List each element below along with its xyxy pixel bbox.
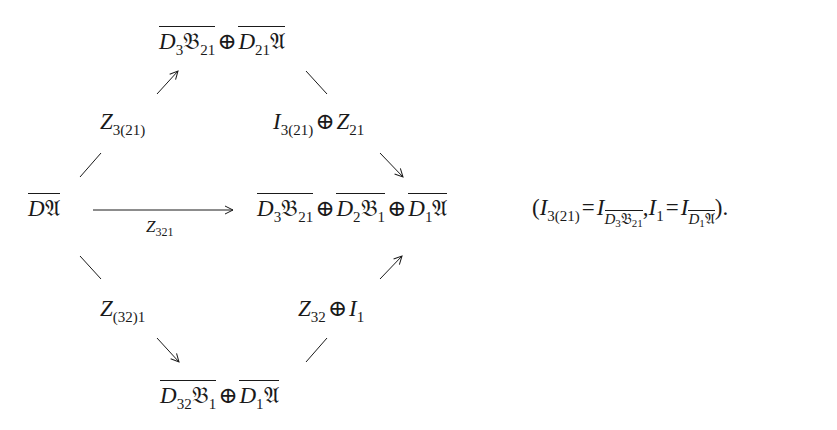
center-term-1: D3𝔅21 [257, 193, 313, 221]
symbol-d: D [257, 196, 274, 221]
subscript: 21 [632, 217, 643, 229]
edge-label-i-3-21-oplus-z-21: I3(21)⊕Z21 [273, 110, 364, 133]
node-left: D𝔄 [28, 193, 60, 221]
edge-left-bottom-upper-segment [80, 256, 101, 279]
oplus-operator: ⊕ [313, 109, 336, 134]
edge-left-top-lower-segment [80, 153, 101, 177]
subscript-overlined-term: D3𝔅21 [605, 210, 643, 228]
symbol-d: D [28, 196, 45, 221]
subscript: 1 [357, 309, 365, 325]
top-term-2: D21𝔄 [238, 26, 285, 54]
fraktur-a: 𝔄 [432, 195, 447, 221]
side-note: (I3(21)=ID3𝔅21,I1=ID1𝔄). [532, 196, 728, 219]
subscript: 2 [353, 209, 361, 225]
edge-label-z-321: Z321 [146, 218, 173, 235]
open-paren: ( [532, 195, 540, 220]
subscript: 3(21) [547, 208, 580, 224]
subscript: 21 [349, 122, 364, 138]
symbol-i: I [273, 109, 281, 134]
edge-top-center-upper-segment [306, 71, 327, 94]
edge-bottom-center-upper-segment [380, 256, 402, 279]
subscript: 32 [311, 309, 326, 325]
subscript: 1 [656, 208, 664, 224]
subscript: 3(21) [113, 122, 146, 138]
close-paren-period: ). [715, 195, 728, 220]
oplus-operator: ⊕ [215, 29, 238, 54]
symbol-d: D [238, 29, 255, 54]
symbol-d: D [408, 196, 425, 221]
subscript: 1 [699, 217, 705, 229]
symbol-d: D [160, 383, 177, 408]
subscript: 21 [298, 209, 313, 225]
subscript: (32)1 [113, 309, 146, 325]
symbol-z: Z [100, 296, 113, 321]
symbol-d: D [159, 29, 176, 54]
symbol-i: I [349, 296, 357, 321]
symbol-d: D [688, 211, 699, 227]
oplus-operator: ⊕ [313, 196, 336, 221]
oplus-operator: ⊕ [385, 196, 408, 221]
fraktur-a: 𝔄 [270, 28, 285, 54]
symbol-d: D [605, 211, 616, 227]
symbol-z: Z [100, 109, 113, 134]
symbol-z: Z [336, 109, 349, 134]
subscript: 3 [176, 42, 184, 58]
edge-left-bottom-lower-segment [157, 338, 179, 362]
fraktur-b: 𝔅 [361, 195, 378, 221]
edge-bottom-center-lower-segment [306, 338, 327, 362]
oplus-operator: ⊕ [216, 383, 239, 408]
symbol-d: D [239, 383, 256, 408]
subscript: 1 [425, 209, 433, 225]
fraktur-b: 𝔅 [621, 210, 632, 228]
subscript-overlined-term: D1𝔄 [688, 210, 714, 228]
symbol-i: I [597, 195, 605, 220]
left-term: D𝔄 [28, 193, 60, 221]
symbol-d: D [336, 196, 353, 221]
fraktur-b: 𝔅 [192, 382, 209, 408]
subscript: 21 [200, 42, 215, 58]
fraktur-b: 𝔅 [183, 28, 200, 54]
subscript: 1 [256, 396, 264, 412]
subscript: 3 [615, 217, 621, 229]
subscript: 321 [155, 225, 173, 239]
fraktur-b: 𝔅 [281, 195, 298, 221]
edge-label-z-32-oplus-i-1: Z32⊕I1 [298, 297, 364, 320]
center-term-2: D2𝔅1 [336, 193, 385, 221]
equals-sign: = [664, 195, 681, 220]
fraktur-a: 𝔄 [705, 210, 715, 228]
subscript: 3 [274, 209, 282, 225]
edge-left-top-upper-segment [157, 71, 178, 94]
subscript: 3(21) [281, 122, 314, 138]
oplus-operator: ⊕ [326, 296, 349, 321]
fraktur-a: 𝔄 [45, 195, 60, 221]
symbol-z: Z [298, 296, 311, 321]
center-term-3: D1𝔄 [408, 193, 447, 221]
node-bottom: D32𝔅1⊕D1𝔄 [160, 380, 279, 408]
fraktur-a: 𝔄 [264, 382, 279, 408]
bottom-term-2: D1𝔄 [239, 380, 278, 408]
equals-sign: = [580, 195, 597, 220]
edge-label-z-32-1: Z(32)1 [100, 297, 145, 320]
top-term-1: D3𝔅21 [159, 26, 215, 54]
subscript: 1 [378, 209, 386, 225]
edge-top-center-lower-segment [380, 153, 403, 177]
edge-label-z-3-21: Z3(21) [100, 110, 145, 133]
bottom-term-1: D32𝔅1 [160, 380, 216, 408]
subscript: 21 [255, 42, 270, 58]
node-center: D3𝔅21⊕D2𝔅1⊕D1𝔄 [257, 193, 447, 221]
subscript: 1 [209, 396, 217, 412]
subscript: 32 [177, 396, 192, 412]
node-top: D3𝔅21⊕D21𝔄 [159, 26, 285, 54]
